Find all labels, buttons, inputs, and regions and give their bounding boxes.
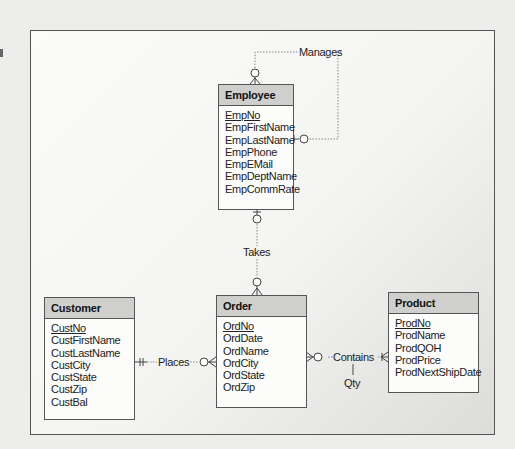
relationship-label-places: Places: [158, 356, 189, 368]
zero-circle-icon: [251, 69, 259, 77]
attribute: CustState: [51, 371, 128, 383]
attribute: ProdNextShipDate: [395, 366, 472, 378]
attribute: CustLastName: [51, 347, 128, 359]
crows-foot-icon: [250, 77, 260, 84]
attribute: EmpFirstName: [225, 121, 287, 133]
attribute: OrdState: [223, 369, 300, 381]
entity-product: Product ProdNo ProdName ProdQOH ProdPric…: [388, 292, 479, 393]
attribute: OrdName: [223, 345, 300, 357]
exactly-one-bars-icon: [134, 358, 147, 366]
attribute: EmpPhone: [225, 146, 287, 158]
attribute-list: EmpNo EmpFirstName EmpLastName EmpPhone …: [219, 106, 293, 195]
attribute-primary-key: ProdNo: [395, 317, 472, 329]
zero-circle-icon: [314, 353, 322, 361]
attribute-primary-key: OrdNo: [223, 320, 300, 332]
attribute-primary-key: EmpNo: [225, 109, 287, 121]
attribute-list: OrdNo OrdDate OrdName OrdCity OrdState O…: [217, 317, 306, 394]
attribute: OrdDate: [223, 332, 300, 344]
attribute: CustFirstName: [51, 334, 128, 346]
attribute: OrdCity: [223, 357, 300, 369]
zero-circle-icon: [253, 215, 261, 223]
relationship-label-takes: Takes: [243, 246, 270, 258]
entity-title: Product: [389, 293, 478, 314]
crows-foot-icon: [306, 352, 314, 362]
zero-circle-icon: [253, 278, 261, 286]
entity-employee: Employee EmpNo EmpFirstName EmpLastName …: [218, 84, 294, 210]
attribute: EmpLastName: [225, 134, 287, 146]
relationship-label-manages: Manages: [299, 46, 342, 58]
relationship-attribute-qty: Qty: [344, 377, 360, 389]
entity-title: Order: [217, 296, 306, 317]
attribute-primary-key: CustNo: [51, 322, 128, 334]
attribute: CustZip: [51, 383, 128, 395]
attribute: CustBal: [51, 396, 128, 408]
entity-order: Order OrdNo OrdDate OrdName OrdCity OrdS…: [216, 295, 307, 408]
zero-circle-icon: [300, 135, 308, 143]
entity-title: Employee: [219, 85, 293, 106]
attribute: EmpEMail: [225, 158, 287, 170]
crows-foot-icon: [208, 357, 216, 367]
attribute: OrdZip: [223, 381, 300, 393]
entity-title: Customer: [45, 298, 134, 319]
zero-circle-icon: [200, 358, 208, 366]
attribute: ProdPrice: [395, 354, 472, 366]
attribute: CustCity: [51, 359, 128, 371]
attribute: ProdName: [395, 329, 472, 341]
attribute: ProdQOH: [395, 342, 472, 354]
one-many-icon: [381, 352, 388, 362]
attribute: EmpCommRate: [225, 183, 287, 195]
attribute: EmpDeptName: [225, 170, 287, 182]
attribute-list: ProdNo ProdName ProdQOH ProdPrice ProdNe…: [389, 314, 478, 378]
crows-foot-icon: [252, 286, 262, 295]
relationship-label-contains: Contains: [333, 351, 374, 363]
entity-customer: Customer CustNo CustFirstName CustLastNa…: [44, 297, 135, 420]
attribute-list: CustNo CustFirstName CustLastName CustCi…: [45, 319, 134, 408]
